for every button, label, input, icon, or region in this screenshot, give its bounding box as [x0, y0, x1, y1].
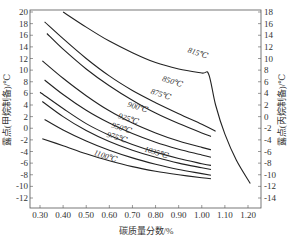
y-axis-left-ticks: 20181614121086420-2-4-6-8-10-12 [16, 7, 33, 203]
y-axis-right-label: 露点(丙烷制备)/℃ [276, 74, 287, 147]
y-left-tick-label: -12 [16, 193, 28, 203]
dew-point-chart: 0.300.400.500.600.700.800.901.001.101.20… [0, 0, 293, 240]
y-right-tick-label: -4 [264, 135, 272, 145]
y-left-tick-label: -4 [21, 147, 29, 157]
series-line-1100℃ [42, 139, 211, 179]
x-tick-label: 0.60 [101, 210, 117, 220]
y-left-tick-label: -6 [21, 158, 29, 168]
x-tick-label: 0.90 [171, 210, 187, 220]
curve-label: 900℃ [126, 100, 150, 115]
y-right-tick-label: -2 [264, 123, 272, 133]
y-right-tick-label: 14 [264, 30, 274, 40]
y-left-tick-label: 4 [24, 100, 29, 110]
y-right-tick-label: 6 [264, 77, 269, 87]
y-right-tick-label: -14 [264, 193, 276, 203]
y-left-tick-label: 2 [24, 112, 29, 122]
y-axis-left-label: 露点(甲烷制备)/℃ [1, 74, 12, 147]
curve-label: 1100℃ [93, 148, 120, 164]
y-right-tick-label: -10 [264, 170, 276, 180]
x-tick-label: 1.00 [194, 210, 210, 220]
y-left-tick-label: 18 [19, 19, 29, 29]
y-left-tick-label: 14 [19, 42, 29, 52]
curve-label: 1035℃ [143, 144, 171, 161]
curve-label: 875℃ [150, 87, 174, 102]
x-tick-label: 0.70 [125, 210, 141, 220]
y-right-tick-label: 16 [264, 19, 274, 29]
y-right-tick-label: -12 [264, 181, 276, 191]
y-left-tick-label: -10 [16, 181, 28, 191]
y-left-tick-label: 8 [24, 77, 29, 87]
y-left-tick-label: 6 [24, 88, 29, 98]
curve-labels: 815℃850℃875℃900℃925℃950℃975℃1035℃1100℃ [93, 46, 211, 165]
chart-svg: 0.300.400.500.600.700.800.901.001.101.20… [0, 0, 293, 240]
y-left-tick-label: 12 [19, 54, 28, 64]
x-axis-label: 碳质量分数/% [119, 225, 175, 236]
curve-label: 815℃ [187, 46, 211, 61]
x-tick-label: 0.80 [148, 210, 164, 220]
x-tick-label: 0.50 [78, 210, 94, 220]
y-right-tick-label: 10 [264, 54, 274, 64]
y-left-tick-label: 20 [19, 7, 29, 17]
y-right-tick-label: -6 [264, 147, 272, 157]
y-right-tick-label: -8 [264, 158, 272, 168]
y-left-tick-label: -2 [21, 135, 29, 145]
y-right-tick-label: 8 [264, 65, 269, 75]
y-right-tick-label: 2 [264, 100, 269, 110]
series-lines [40, 12, 250, 184]
x-tick-label: 1.20 [240, 210, 256, 220]
y-right-tick-label: 18 [264, 7, 274, 17]
curve-label: 850℃ [161, 74, 185, 89]
y-right-tick-label: 12 [264, 42, 273, 52]
y-left-tick-label: 0 [24, 123, 29, 133]
y-left-tick-label: -8 [21, 170, 29, 180]
y-left-tick-label: 16 [19, 30, 29, 40]
x-tick-label: 0.40 [55, 210, 71, 220]
x-tick-label: 1.10 [217, 210, 233, 220]
y-left-tick-label: 10 [19, 65, 29, 75]
x-tick-label: 0.30 [32, 210, 48, 220]
y-right-tick-label: 4 [264, 88, 269, 98]
x-axis-ticks: 0.300.400.500.600.700.800.901.001.101.20 [32, 205, 256, 220]
y-right-tick-label: 0 [264, 112, 269, 122]
